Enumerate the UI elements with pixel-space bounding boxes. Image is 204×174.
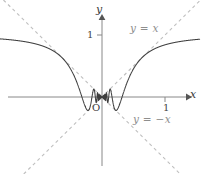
function-curve [0, 39, 200, 111]
origin-label: O [92, 103, 100, 113]
y-axis-tick-label-1: 1 [87, 30, 93, 40]
plot-canvas [0, 0, 204, 174]
envelope-line-y-equals-x [24, 0, 201, 174]
math-figure: y x 1 1 O y = x y = −x [0, 0, 204, 174]
annotation-y-equals-x: y = x [130, 23, 159, 34]
y-axis-label: y [96, 4, 102, 15]
x-axis-label: x [190, 89, 196, 100]
annotation-y-equals-negative-x: y = −x [133, 114, 171, 125]
x-axis-tick-label-1: 1 [163, 103, 169, 113]
